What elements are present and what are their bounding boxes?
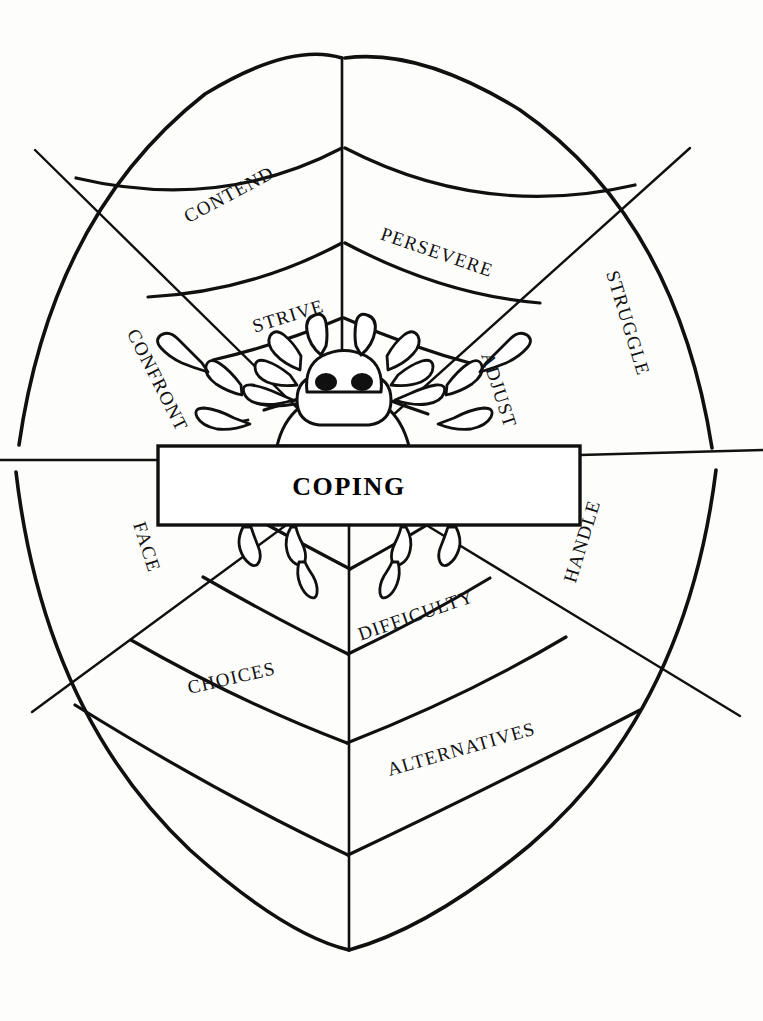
spider-leg-rear-right-inner-seg2 (380, 562, 399, 598)
segment-label-contend: CONTEND (180, 162, 277, 227)
ring-3-lower-left (131, 640, 347, 743)
spider-leg-rear-left-inner-seg3 (298, 562, 317, 598)
spider-leg-front-left-3b (243, 385, 293, 405)
ring-4-upper-left (76, 148, 342, 190)
segment-label-alternatives: ALTERNATIVES (385, 718, 538, 780)
spider-leg-rear-left-inner-seg2 (286, 527, 305, 565)
spoke-east (580, 450, 763, 455)
ring-5-upper-right (345, 57, 712, 448)
ring-2-lower-left (203, 577, 348, 654)
spider-leg-rear-right-inner (391, 527, 410, 565)
spider-leg-front-right-4a (446, 361, 482, 395)
segment-label-struggle: STRUGGLE (602, 268, 654, 378)
segment-label-face: FACE (129, 519, 165, 575)
spider-pedipalp-right (355, 314, 375, 355)
segment-label-difficulty: DIFFICULTY (355, 585, 476, 644)
spider-leg-front-right-5b (438, 408, 492, 429)
worksheet-page: COPING CONTEND PERSEVERE STRUGGLE STRIVE… (0, 0, 763, 1021)
spider-leg-front-right-3b (395, 385, 445, 405)
spider-pedipalp-left (307, 314, 327, 355)
segment-label-persevere: PERSEVERE (378, 223, 496, 281)
spider-leg-rear-left-outer (239, 527, 260, 566)
spider-eye-right (351, 373, 373, 391)
spider-leg-rear-right-outer (439, 527, 460, 566)
spider-web-diagram: COPING CONTEND PERSEVERE STRUGGLE STRIVE… (0, 0, 763, 1021)
spider-leg-front-left-5b (196, 408, 250, 429)
spider-leg-front-left-4b (158, 333, 209, 372)
coping-banner[interactable]: COPING (158, 446, 580, 525)
coping-banner-label: COPING (292, 472, 406, 501)
spider-eye-left (315, 373, 337, 391)
spider-leg-front-left-4a (206, 361, 242, 395)
